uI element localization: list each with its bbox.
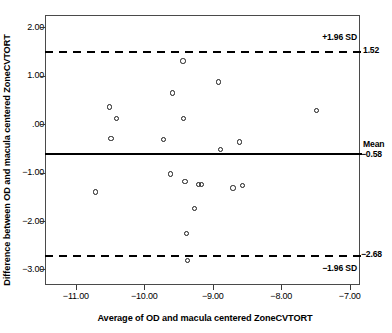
data-point: [180, 58, 185, 63]
data-point: [199, 182, 204, 187]
x-tick-label: −8.00: [251, 292, 311, 301]
mean-value: −0.58: [361, 149, 382, 159]
mean-label: Mean: [363, 139, 384, 149]
data-point: [314, 108, 319, 113]
data-point: [230, 185, 235, 190]
data-point: [181, 116, 186, 121]
y-axis-ticks: 2.001.00.00−1.00−2.00−3.00: [0, 0, 44, 333]
bland-altman-chart: Difference between OD and macula centere…: [0, 0, 392, 333]
data-point: [161, 137, 166, 142]
y-tick-label: 2.00: [6, 23, 44, 32]
y-tick-mark: [40, 269, 45, 270]
upper-loa-label: +1.96 SD: [322, 32, 357, 42]
data-point: [192, 206, 197, 211]
y-tick-label: −3.00: [6, 265, 44, 274]
upper-loa-value: 1.52: [363, 45, 379, 55]
data-point: [108, 136, 113, 141]
y-tick-label: −1.00: [6, 168, 44, 177]
x-tick-label: −9.00: [183, 292, 243, 301]
reference-line-lower_loa: [45, 255, 362, 257]
data-point: [107, 104, 112, 109]
reference-line-mean: [45, 153, 362, 155]
data-point: [93, 189, 98, 194]
x-tick-mark: [144, 285, 145, 290]
data-point: [168, 171, 173, 176]
data-point: [170, 90, 175, 95]
data-point: [114, 116, 119, 121]
y-tick-mark: [40, 173, 45, 174]
data-point: [216, 79, 221, 84]
data-point: [218, 147, 223, 152]
data-point: [185, 258, 190, 263]
x-tick-mark: [281, 285, 282, 290]
y-tick-mark: [40, 124, 45, 125]
x-tick-mark: [350, 285, 351, 290]
y-tick-label: −2.00: [6, 217, 44, 226]
y-tick-mark: [40, 221, 45, 222]
plot-area: [46, 16, 359, 284]
y-tick-label: 1.00: [6, 71, 44, 80]
y-tick-mark: [40, 27, 45, 28]
data-point: [182, 179, 187, 184]
y-tick-mark: [40, 76, 45, 77]
data-point: [240, 183, 245, 188]
x-tick-label: −11.00: [46, 292, 106, 301]
lower-loa-label: −1.96 SD: [322, 263, 357, 273]
lower-loa-value: −2.68: [361, 249, 382, 259]
x-tick-mark: [76, 285, 77, 290]
reference-line-upper_loa: [45, 51, 362, 53]
x-tick-label: −10.00: [114, 292, 174, 301]
data-point: [237, 139, 242, 144]
x-tick-mark: [213, 285, 214, 290]
x-tick-label: −7.00: [320, 292, 380, 301]
plot-frame: [45, 15, 360, 285]
y-tick-label: .00: [6, 120, 44, 129]
x-axis-title: Average of OD and macula centered ZoneCV…: [45, 313, 365, 323]
data-point: [184, 231, 189, 236]
